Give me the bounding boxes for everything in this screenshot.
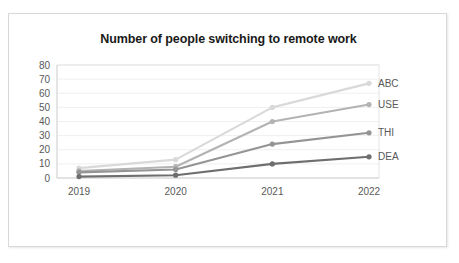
series-line-abc <box>79 83 369 168</box>
y-axis-tick-label: 60 <box>39 88 51 99</box>
series-end-labels: ABCUSETHIDEA <box>378 78 399 162</box>
series-line-dea <box>79 157 369 177</box>
data-point-abc-2021 <box>270 105 275 110</box>
y-axis-tick-label: 10 <box>39 158 51 169</box>
series-label-thi: THI <box>378 127 394 138</box>
y-axis-tick-label: 20 <box>39 144 51 155</box>
x-axis-tick-labels: 2019202020212022 <box>68 186 381 197</box>
data-point-abc-2020 <box>173 157 178 162</box>
data-point-dea-2022 <box>366 154 371 159</box>
data-point-thi-2022 <box>366 130 371 135</box>
data-point-dea-2020 <box>173 173 178 178</box>
data-point-abc-2022 <box>366 81 371 86</box>
y-axis-tick-label: 80 <box>39 60 51 71</box>
x-axis-tick-label: 2021 <box>261 186 284 197</box>
data-point-use-2022 <box>366 102 371 107</box>
gridlines <box>57 65 379 178</box>
y-axis-tick-label: 30 <box>39 130 51 141</box>
y-axis-tick-label: 50 <box>39 102 51 113</box>
y-axis-tick-label: 0 <box>44 173 50 184</box>
series-line-thi <box>79 133 369 173</box>
series-label-use: USE <box>378 99 399 110</box>
data-point-thi-2020 <box>173 167 178 172</box>
x-axis-tick-label: 2022 <box>358 186 381 197</box>
chart-svg: 01020304050607080 2019202020212022 ABCUS… <box>9 14 448 248</box>
x-axis-tick-label: 2019 <box>68 186 91 197</box>
series-lines <box>79 83 369 176</box>
chart-card: Number of people switching to remote wor… <box>8 13 447 247</box>
y-axis-tick-labels: 01020304050607080 <box>39 60 51 184</box>
data-point-thi-2021 <box>270 142 275 147</box>
x-axis-tick-label: 2020 <box>165 186 188 197</box>
y-axis-tick-label: 70 <box>39 74 51 85</box>
data-point-use-2021 <box>270 119 275 124</box>
y-axis-tick-label: 40 <box>39 116 51 127</box>
series-label-dea: DEA <box>378 151 399 162</box>
data-point-dea-2019 <box>76 174 81 179</box>
data-point-dea-2021 <box>270 161 275 166</box>
line-chart: 01020304050607080 2019202020212022 ABCUS… <box>9 14 448 248</box>
series-label-abc: ABC <box>378 78 399 89</box>
